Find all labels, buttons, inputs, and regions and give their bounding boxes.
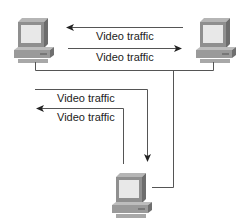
flow-label-left-to-right: Video traffic [96,51,154,63]
flow-label-left-to-bottom: Video traffic [57,92,115,104]
flow-label-right-to-left: Video traffic [96,30,154,42]
computer-bottom-icon [112,173,152,218]
flow-label-bottom-to-left: Video traffic [57,111,115,123]
computer-left-icon [14,18,54,63]
computer-right-icon [196,18,236,63]
